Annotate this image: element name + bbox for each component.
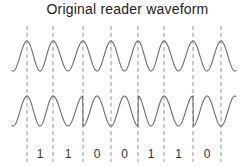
bit-period-dividers <box>27 26 221 162</box>
bit-label: 0 <box>87 147 107 161</box>
bit-label: 1 <box>58 147 78 161</box>
waveform-diagram <box>0 0 249 167</box>
original-reader-waveform <box>12 41 236 71</box>
bit-label: 0 <box>197 147 217 161</box>
bit-label: 1 <box>141 147 161 161</box>
bit-label: 1 <box>169 147 189 161</box>
bit-label: 0 <box>115 147 135 161</box>
bit-label: 1 <box>30 147 50 161</box>
phase-modulated-waveform <box>12 96 236 126</box>
